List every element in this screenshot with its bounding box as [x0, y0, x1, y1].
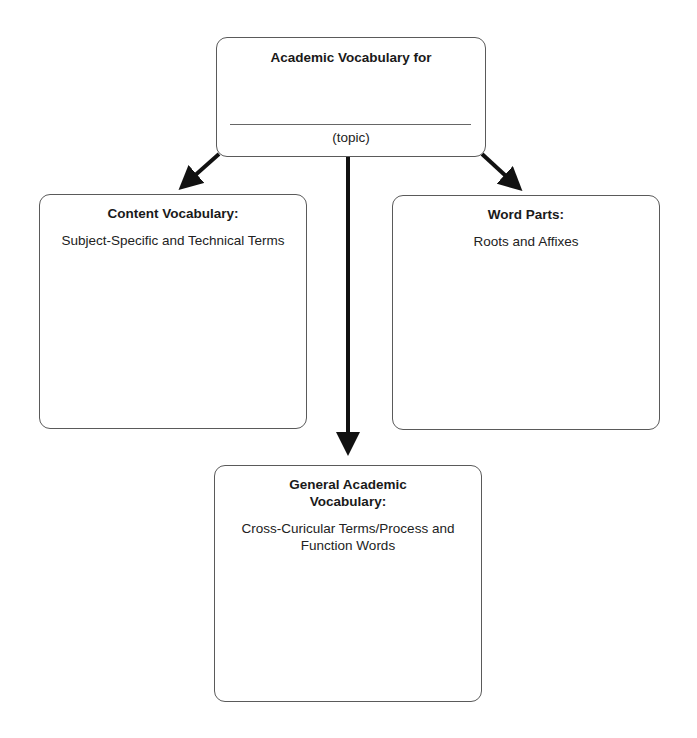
word-parts-subtitle: Roots and Affixes — [393, 233, 659, 250]
general-academic-subtitle-line1: Cross-Curicular Terms/Process and — [215, 520, 481, 537]
word-parts-box[interactable]: Word Parts: Roots and Affixes — [392, 195, 660, 430]
general-academic-subtitle-line2: Function Words — [215, 537, 481, 554]
general-academic-title-line2: Vocabulary: — [215, 493, 481, 510]
content-vocabulary-box[interactable]: Content Vocabulary: Subject-Specific and… — [39, 194, 307, 429]
topic-blank-line[interactable] — [230, 124, 471, 125]
general-academic-title: General Academic Vocabulary: — [215, 476, 481, 510]
arrow-to-content — [183, 154, 219, 186]
general-academic-subtitle: Cross-Curicular Terms/Process and Functi… — [215, 520, 481, 554]
topic-title: Academic Vocabulary for — [217, 49, 485, 66]
general-academic-box[interactable]: General Academic Vocabulary: Cross-Curic… — [214, 465, 482, 702]
word-parts-title: Word Parts: — [393, 206, 659, 223]
topic-box: Academic Vocabulary for (topic) — [216, 37, 486, 157]
arrow-to-word-parts — [482, 154, 518, 187]
general-academic-title-line1: General Academic — [215, 476, 481, 493]
content-vocabulary-title: Content Vocabulary: — [40, 205, 306, 222]
content-vocabulary-subtitle: Subject-Specific and Technical Terms — [40, 232, 306, 249]
topic-label: (topic) — [217, 129, 485, 146]
